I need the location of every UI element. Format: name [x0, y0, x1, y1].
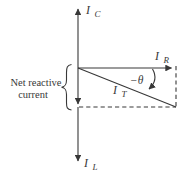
net-reactive-label-line1: Net reactive [10, 77, 61, 88]
net-reactive-label-line2: current [18, 89, 48, 100]
phasor-diagram-figure: I C I R I T I L −θ Net reactive current [0, 0, 185, 181]
phasor-diagram-canvas: I C I R I T I L −θ Net reactive current [0, 0, 185, 181]
net-reactive-brace [62, 65, 72, 111]
ir-label: I R [154, 46, 170, 65]
ic-label: I C [85, 0, 102, 19]
angle-arc-arrow [149, 69, 155, 89]
angle-label: −θ [130, 74, 144, 86]
it-vector [78, 68, 176, 107]
il-label: I L [83, 153, 98, 172]
label-group: I C I R I T I L −θ Net reactive current [10, 0, 169, 172]
it-label: I T [112, 80, 128, 99]
